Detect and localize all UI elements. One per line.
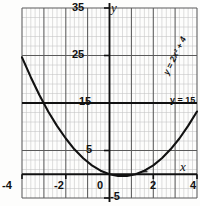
x-tick-label-minus4: -4 — [2, 180, 12, 191]
graph-figure: 35 25 15 5 -5 -4 -2 0 2 4 y x y = 2x² + … — [0, 0, 200, 206]
x-axis-label: x — [180, 160, 186, 173]
horizontal-line-label: y = 15 — [170, 96, 195, 105]
x-tick-label-0: 0 — [97, 180, 103, 191]
y-axis-label: y — [111, 1, 117, 14]
y-tick-label-minus5: -5 — [110, 191, 120, 202]
x-tick-label-2: 2 — [150, 180, 156, 191]
x-tick-label-4: 4 — [190, 180, 196, 191]
y-tick-label-15: 15 — [79, 96, 91, 107]
y-tick-label-25: 25 — [72, 49, 84, 60]
y-tick-label-5: 5 — [86, 144, 92, 155]
x-tick-label-minus2: -2 — [54, 180, 64, 191]
y-tick-label-35: 35 — [72, 2, 84, 13]
